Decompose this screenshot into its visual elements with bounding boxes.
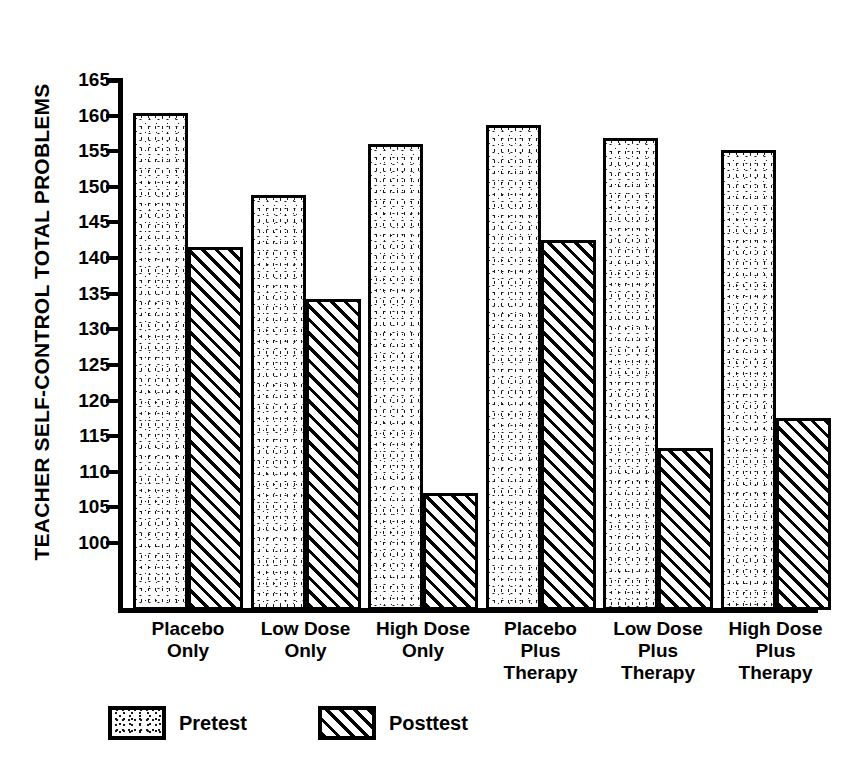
y-tick-label: 130 [38,319,110,338]
bar-pretest-group-5 [603,138,658,610]
bar-posttest-group-3 [423,493,478,610]
legend-swatch-pretest [108,706,166,740]
x-axis-label-group-6: High Dose Plus Therapy [704,618,846,685]
bar-posttest-group-5 [658,448,713,610]
bar-pretest-group-2 [251,195,306,610]
bar-pretest-group-4 [486,125,541,610]
bar-chart-figure: TEACHER SELF-CONTROL TOTAL PROBLEMS 1001… [0,0,846,763]
y-tick-label: 120 [38,391,110,410]
plot-area: 1001051101151201251301351401451501551601… [0,0,846,763]
legend-item-pretest: Pretest [108,706,247,740]
y-tick-label: 165 [38,70,110,89]
y-tick-label: 135 [38,284,110,303]
y-tick-label: 100 [38,533,110,552]
y-tick-label: 115 [38,426,110,445]
y-tick-label: 155 [38,141,110,160]
legend-swatch-posttest [318,706,376,740]
y-tick-label: 110 [38,462,110,481]
bar-posttest-group-1 [188,247,243,610]
bar-posttest-group-2 [306,299,361,610]
y-tick-label: 150 [38,177,110,196]
y-tick-label: 105 [38,497,110,516]
legend-label-pretest: Pretest [179,712,247,735]
y-tick-label: 140 [38,248,110,267]
y-tick-label: 145 [38,212,110,231]
bar-posttest-group-4 [541,240,596,610]
y-axis-line [118,78,123,612]
legend-label-posttest: Posttest [389,712,468,735]
bar-posttest-group-6 [776,418,831,610]
bar-pretest-group-6 [721,150,776,610]
y-tick-label: 160 [38,106,110,125]
bar-pretest-group-3 [368,144,423,610]
bar-pretest-group-1 [133,113,188,610]
y-tick-label: 125 [38,355,110,374]
legend-item-posttest: Posttest [318,706,468,740]
